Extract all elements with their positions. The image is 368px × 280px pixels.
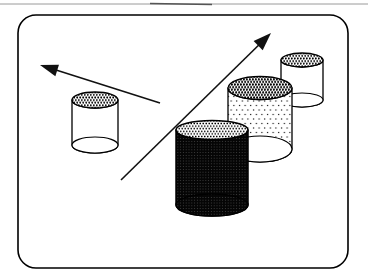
cylinder-black-top-cap [176, 121, 248, 140]
cylinder-black [176, 121, 248, 217]
cylinder-black-bottom-cap [176, 194, 248, 216]
cylinder-left-top-cap [72, 92, 118, 108]
cylinder-left-bottom-cap [72, 137, 118, 153]
cylinder-dotted-top-cap [228, 77, 292, 100]
cylinder-back-right-top-cap [281, 53, 323, 67]
figure-canvas [0, 0, 368, 280]
cylinder-left [72, 92, 118, 153]
diagram-svg [0, 0, 368, 280]
scan-artifact-dark-segment [150, 4, 212, 5]
